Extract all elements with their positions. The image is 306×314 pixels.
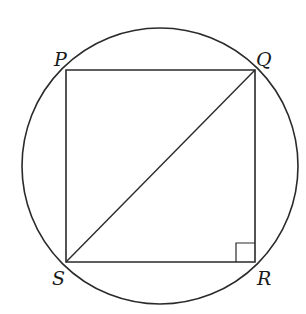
label-s: S — [52, 267, 65, 289]
right-angle-marker — [236, 243, 255, 262]
diagonal-sq — [66, 70, 255, 262]
label-r: R — [256, 267, 271, 289]
diagram-canvas: P Q R S — [0, 0, 306, 314]
label-q: Q — [256, 48, 272, 70]
geometry-figure: P Q R S — [0, 0, 306, 314]
label-p: P — [53, 48, 68, 70]
